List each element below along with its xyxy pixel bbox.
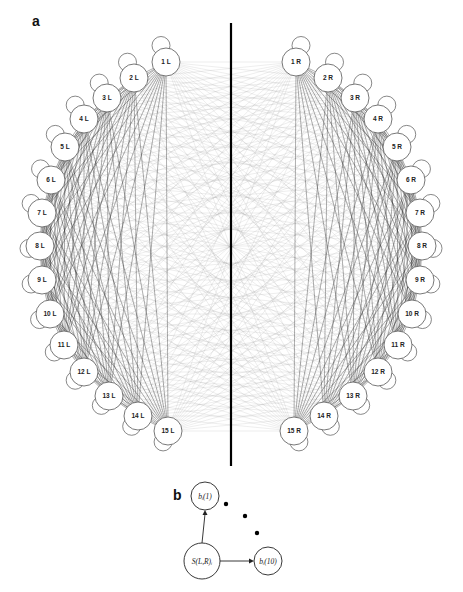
node-14l: 14 L [123, 402, 152, 435]
ellipsis-dot [243, 514, 247, 518]
node-math-label: bᵢ(1) [198, 492, 212, 501]
panel-b-label: b [173, 487, 182, 503]
panel-b-node-s: S(L,R)ᵢ [184, 543, 220, 579]
node-9r: 9 R [406, 266, 440, 294]
panel-a-label: a [32, 13, 40, 29]
node-label: 8 L [35, 242, 44, 249]
node-label: 11 L [58, 341, 71, 348]
node-label: 3 R [350, 94, 360, 101]
node-8l: 8 L [20, 232, 54, 260]
node-14r: 14 R [310, 402, 339, 435]
node-label: 13 R [346, 392, 360, 399]
node-13l: 13 L [92, 382, 123, 414]
node-3r: 3 R [341, 74, 372, 112]
node-label: 14 L [131, 412, 144, 419]
ellipsis-dot [224, 502, 228, 506]
node-1l: 1 L [152, 37, 180, 76]
node-9l: 9 L [22, 266, 56, 294]
node-5r: 5 R [383, 125, 416, 161]
arrowhead-icon [203, 510, 208, 515]
panel-b-nodes: bᵢ(1)S(L,R)ᵢbᵢ(10) [184, 482, 282, 579]
node-5l: 5 L [46, 125, 79, 161]
panel-b-node-b10: bᵢ(10) [254, 547, 282, 575]
node-label: 7 L [37, 209, 46, 216]
node-8r: 8 R [408, 232, 442, 260]
node-label: 12 L [77, 368, 90, 375]
node-3l: 3 L [90, 74, 121, 112]
node-13r: 13 R [339, 382, 370, 414]
node-label: 5 L [60, 143, 69, 150]
node-15l: 15 L [154, 417, 182, 451]
node-12r: 12 R [364, 358, 396, 389]
node-label: 2 R [323, 74, 333, 81]
node-label: 2 L [129, 74, 138, 81]
node-label: 15 R [287, 427, 301, 434]
node-2l: 2 L [118, 53, 148, 92]
node-label: 9 R [415, 276, 425, 283]
panel-b-node-b1: bᵢ(1) [191, 482, 219, 510]
network-figure: 1 L2 L3 L4 L5 L6 L7 L8 L9 L10 L11 L12 L1… [0, 0, 463, 592]
node-label: 1 R [291, 58, 301, 65]
node-label: 15 L [161, 427, 174, 434]
node-15r: 15 R [280, 417, 308, 451]
node-label: 13 L [102, 392, 115, 399]
node-label: 10 R [405, 310, 419, 317]
node-12l: 12 L [66, 358, 98, 389]
node-label: 8 R [417, 242, 427, 249]
node-label: 7 R [415, 209, 425, 216]
arrow-to-b1 [202, 514, 205, 543]
node-label: 12 R [371, 368, 385, 375]
node-label: 5 R [392, 143, 402, 150]
node-label: 3 L [102, 94, 111, 101]
node-label: 6 L [46, 176, 55, 183]
node-math-label: S(L,R)ᵢ [192, 557, 213, 566]
node-2r: 2 R [314, 53, 344, 92]
node-label: 11 R [391, 341, 405, 348]
node-label: 4 L [79, 115, 88, 122]
node-label: 6 R [406, 176, 416, 183]
node-11l: 11 L [45, 331, 78, 361]
node-math-label: bᵢ(10) [259, 557, 277, 566]
node-6l: 6 L [32, 160, 65, 194]
ellipsis-dot [255, 531, 259, 535]
node-1r: 1 R [282, 37, 310, 76]
node-label: 14 R [317, 412, 331, 419]
arrowhead-icon [249, 559, 254, 564]
node-10r: 10 R [398, 300, 431, 329]
node-10l: 10 L [31, 300, 64, 329]
node-11r: 11 R [384, 331, 417, 361]
node-label: 9 L [37, 276, 46, 283]
node-label: 10 L [43, 310, 56, 317]
node-label: 1 L [161, 58, 170, 65]
ellipsis-dots [224, 502, 259, 535]
node-6r: 6 R [397, 160, 430, 194]
node-label: 4 R [373, 115, 383, 122]
panel-b-diagram: b bᵢ(1)S(L,R)ᵢbᵢ(10) [173, 482, 282, 579]
